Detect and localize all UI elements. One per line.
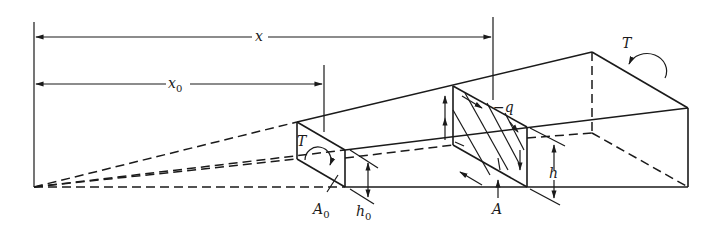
label-T-left: T (297, 133, 308, 149)
area-A-pointer: A (490, 180, 502, 217)
label-h: h (549, 165, 558, 181)
label-A0: A0 (311, 201, 330, 220)
area-A0-pointer: A0 (311, 175, 338, 220)
dimension-h: h (530, 128, 565, 205)
label-x0: x0 (168, 75, 182, 94)
label-q: −q (493, 99, 514, 115)
label-x: x (255, 28, 263, 44)
label-A: A (490, 201, 502, 217)
torque-right: T (622, 35, 667, 78)
label-T-right: T (622, 35, 633, 51)
dimension-x: x (36, 17, 493, 100)
tapered-beam-diagram: x x0 (0, 0, 715, 231)
torque-left: T (297, 133, 331, 165)
label-h0: h0 (356, 203, 371, 222)
dimension-h0: h0 (350, 150, 378, 222)
dimension-x0: x0 (36, 65, 324, 132)
